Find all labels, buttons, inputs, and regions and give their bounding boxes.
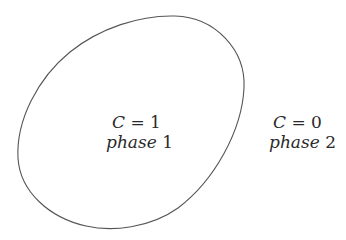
phase-2-equation: C = 0 [273, 112, 336, 132]
phase-2-name: phase 2 [269, 132, 336, 152]
phase-1-label: C = 1 phase 1 [112, 112, 173, 152]
equals-sign: = [125, 112, 150, 132]
concentration-variable: C [273, 112, 286, 132]
phase-word: phase [269, 132, 320, 152]
equals-sign: = [286, 112, 311, 132]
phase-2-label: C = 0 phase 2 [273, 112, 336, 152]
phase-1-equation: C = 1 [112, 112, 173, 132]
phase-number: 2 [320, 132, 336, 152]
phase-word: phase [106, 132, 157, 152]
concentration-value: 0 [311, 112, 322, 132]
concentration-variable: C [112, 112, 125, 132]
phase-number: 1 [157, 132, 173, 152]
concentration-value: 1 [150, 112, 161, 132]
phase-1-name: phase 1 [106, 132, 173, 152]
